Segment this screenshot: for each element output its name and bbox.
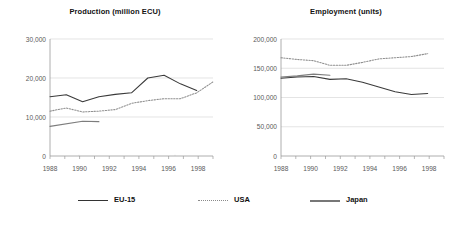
ytick-label-employment-100000: 100,000 bbox=[253, 94, 277, 101]
xtick-label-employment-1998: 1998 bbox=[422, 165, 437, 172]
production-plot-svg: 30,000 20,000 10,000 0 1988 1990 1992 19… bbox=[0, 0, 230, 185]
ytick-label-production-20000: 20,000 bbox=[26, 75, 47, 82]
line-swatch-icon bbox=[78, 196, 108, 204]
chart-panel-employment: Employment (units) bbox=[231, 0, 461, 185]
plot-area-employment: 200,000 150,000 100,000 50,000 0 1988 19… bbox=[231, 0, 461, 185]
chart-legend: EU-15 USA Japan bbox=[0, 192, 461, 218]
xtick-label-production-1994: 1994 bbox=[132, 165, 147, 172]
dotted-line-swatch-icon bbox=[198, 196, 228, 204]
thick-line-swatch-icon bbox=[310, 196, 340, 204]
ytick-label-employment-200000: 200,000 bbox=[253, 36, 277, 43]
xtick-label-production-1990: 1990 bbox=[72, 165, 87, 172]
ytick-label-employment-50000: 50,000 bbox=[257, 123, 278, 130]
xtick-label-employment-1996: 1996 bbox=[392, 165, 407, 172]
employment-plot-svg: 200,000 150,000 100,000 50,000 0 1988 19… bbox=[231, 0, 461, 185]
series-line-japan-production bbox=[50, 121, 99, 126]
legend-label-japan: Japan bbox=[346, 196, 368, 204]
xtick-label-production-1992: 1992 bbox=[102, 165, 117, 172]
ytick-label-employment-0: 0 bbox=[273, 153, 277, 160]
xtick-label-employment-1994: 1994 bbox=[363, 165, 378, 172]
series-line-eu15-employment bbox=[281, 76, 428, 94]
x-tick-marks-production bbox=[50, 156, 213, 159]
xtick-label-employment-1992: 1992 bbox=[333, 165, 348, 172]
series-line-usa-production bbox=[50, 82, 213, 112]
chart-figure: Production (million ECU) bbox=[0, 0, 461, 228]
legend-item-usa[interactable]: USA bbox=[198, 192, 250, 208]
series-line-usa-employment bbox=[281, 54, 428, 66]
legend-item-eu15[interactable]: EU-15 bbox=[78, 192, 135, 208]
ytick-label-employment-150000: 150,000 bbox=[253, 65, 277, 72]
xtick-label-production-1988: 1988 bbox=[43, 165, 58, 172]
xtick-label-employment-1990: 1990 bbox=[303, 165, 318, 172]
xtick-label-production-1998: 1998 bbox=[191, 165, 206, 172]
legend-label-usa: USA bbox=[234, 196, 250, 204]
artifact-dot bbox=[174, 155, 175, 156]
plot-area-production: 30,000 20,000 10,000 0 1988 1990 1992 19… bbox=[0, 0, 230, 185]
xtick-label-production-1996: 1996 bbox=[161, 165, 176, 172]
x-tick-marks-employment bbox=[281, 156, 444, 159]
legend-label-eu15: EU-15 bbox=[114, 196, 135, 204]
ytick-label-production-30000: 30,000 bbox=[26, 36, 47, 43]
series-line-eu15-production bbox=[50, 75, 197, 102]
ytick-label-production-0: 0 bbox=[42, 153, 46, 160]
legend-item-japan[interactable]: Japan bbox=[310, 192, 368, 208]
chart-panel-production: Production (million ECU) bbox=[0, 0, 230, 185]
xtick-label-employment-1988: 1988 bbox=[274, 165, 289, 172]
artifact-dot bbox=[78, 155, 79, 156]
ytick-label-production-10000: 10,000 bbox=[26, 114, 47, 121]
